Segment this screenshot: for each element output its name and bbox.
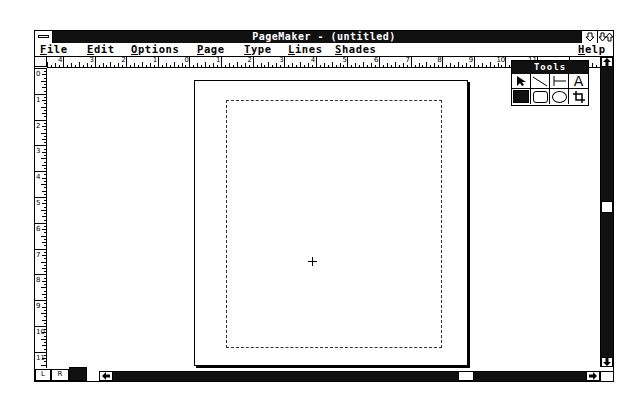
ruler-tick: [42, 294, 46, 295]
ruler-tick: [44, 342, 46, 343]
ruler-tick: [138, 65, 139, 67]
ruler-tick: [41, 339, 46, 340]
scroll-left-button[interactable]: [99, 371, 113, 381]
ruler-tick: [162, 65, 163, 67]
pasteboard[interactable]: [48, 68, 600, 371]
ruler-tick: [44, 220, 46, 221]
ruler-tick: [99, 65, 100, 67]
menu-page[interactable]: Page: [197, 43, 225, 56]
ruler-tick: [182, 63, 183, 67]
ruler-label: 2: [248, 57, 252, 64]
ruler-label: 11: [36, 355, 45, 362]
ruler-label: 10: [496, 57, 505, 64]
ruler-tick: [44, 207, 46, 208]
ruler-tick: [95, 57, 96, 67]
ruler-tick: [158, 57, 159, 67]
ruler-tick: [217, 65, 218, 67]
left-master-page-icon[interactable]: L: [35, 369, 51, 381]
ruler-tick: [44, 265, 46, 266]
ruler-tick: [44, 181, 46, 182]
rounded-corner-tool[interactable]: [531, 89, 550, 104]
ruler-tick: [292, 63, 293, 67]
ruler-tick: [35, 94, 46, 95]
vertical-scroll-thumb[interactable]: [601, 201, 613, 213]
scroll-up-button[interactable]: [601, 57, 613, 67]
menu-lines[interactable]: Lines: [288, 43, 323, 56]
ruler-tick: [44, 187, 46, 188]
scroll-down-button[interactable]: [601, 357, 613, 367]
ruler-tick: [296, 65, 297, 67]
ruler-tick: [41, 210, 46, 211]
text-tool[interactable]: A: [569, 74, 588, 89]
menu-file[interactable]: File: [40, 43, 68, 56]
menu-options[interactable]: Options: [131, 43, 179, 56]
ruler-tick: [42, 87, 46, 88]
page[interactable]: [194, 80, 468, 366]
ruler-tick: [178, 65, 179, 67]
perpendicular-line-tool[interactable]: [550, 74, 569, 89]
menu-type[interactable]: Type: [244, 43, 272, 56]
ruler-tick: [44, 97, 46, 98]
ruler-tick: [44, 200, 46, 201]
rounded-rectangle-icon: [533, 91, 548, 103]
minimize-button[interactable]: [581, 31, 597, 43]
vertical-ruler[interactable]: 01234567891011: [35, 68, 47, 368]
scroll-right-button[interactable]: [586, 371, 600, 381]
menu-help[interactable]: Help: [578, 43, 606, 56]
ruler-tick: [44, 162, 46, 163]
ruler-origin[interactable]: [35, 57, 47, 67]
ruler-tick: [42, 255, 46, 256]
horizontal-scroll-thumb[interactable]: [458, 371, 474, 381]
page-1-icon[interactable]: [69, 367, 87, 381]
square-corner-tool[interactable]: [512, 89, 531, 104]
ruler-label: 8: [437, 57, 441, 64]
ruler-tick: [55, 63, 56, 67]
ruler-tick: [268, 62, 269, 67]
menu-edit[interactable]: Edit: [87, 43, 115, 56]
ruler-tick: [118, 63, 119, 67]
ruler-tick: [189, 57, 190, 67]
ruler-label: 1: [216, 57, 220, 64]
pointer-tool[interactable]: [512, 74, 531, 89]
ruler-tick: [42, 100, 46, 101]
ruler-label: 0: [184, 57, 188, 64]
ruler-label: 3: [36, 148, 40, 155]
oval-tool[interactable]: [550, 89, 569, 104]
ruler-tick: [505, 57, 506, 67]
ruler-tick: [130, 65, 131, 67]
ruler-tick: [47, 62, 48, 67]
cropping-tool[interactable]: [569, 89, 588, 104]
filled-rectangle-icon: [513, 90, 529, 103]
ruler-tick: [44, 232, 46, 233]
menu-shades[interactable]: Shades: [335, 43, 377, 56]
diagonal-line-tool[interactable]: [531, 74, 550, 89]
ruler-tick: [245, 63, 246, 67]
ruler-tick: [114, 65, 115, 67]
ruler-tick: [347, 57, 348, 67]
ruler-tick: [407, 65, 408, 67]
ruler-tick: [328, 65, 329, 67]
ruler-label: 7: [36, 252, 40, 259]
horizontal-scrollbar[interactable]: [99, 371, 600, 381]
ruler-tick: [592, 63, 593, 67]
ruler-tick: [44, 84, 46, 85]
ruler-tick: [42, 281, 46, 282]
right-master-page-icon[interactable]: R: [51, 369, 69, 381]
ruler-tick: [110, 62, 111, 67]
maximize-arrows-icon: [599, 32, 613, 42]
ruler-tick: [35, 171, 46, 172]
ruler-tick: [150, 63, 151, 67]
ruler-tick: [44, 316, 46, 317]
ruler-tick: [44, 168, 46, 169]
ruler-label: 4: [311, 57, 315, 64]
ruler-label: 3: [279, 57, 283, 64]
down-arrow-icon: [603, 358, 611, 366]
ruler-label: 6: [374, 57, 378, 64]
maximize-button[interactable]: [597, 31, 613, 43]
margin-guides: [226, 100, 442, 348]
ruler-tick: [44, 123, 46, 124]
vertical-scrollbar[interactable]: [600, 57, 613, 367]
ruler-tick: [450, 63, 451, 67]
ruler-label: 9: [36, 303, 40, 310]
ruler-tick: [154, 65, 155, 67]
